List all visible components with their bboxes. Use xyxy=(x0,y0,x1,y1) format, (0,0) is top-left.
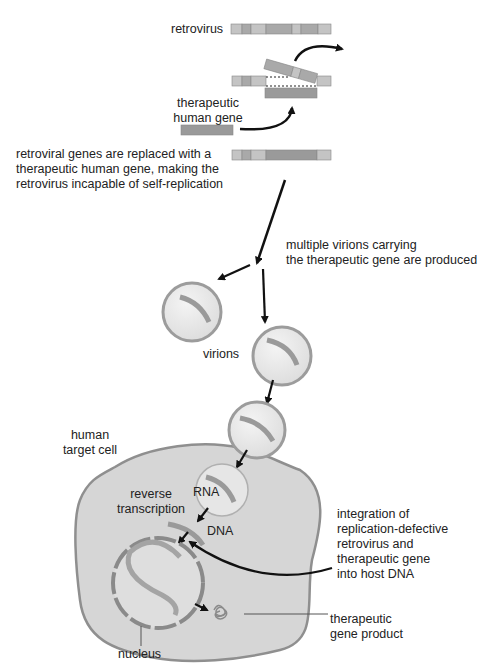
human-target-cell xyxy=(75,444,320,661)
virions-produced-caption: multiple virions carrying the therapeuti… xyxy=(286,238,477,268)
excised-genome-bar xyxy=(232,59,331,98)
therapeutic-gene-bar xyxy=(181,125,233,135)
virion-1 xyxy=(163,283,221,341)
virion-3 xyxy=(229,402,285,458)
target-cell-label: human target cell xyxy=(60,428,120,458)
retrovirus-genome-bar xyxy=(231,24,331,34)
nucleus xyxy=(113,538,203,628)
recombinant-genome-bar xyxy=(232,150,331,160)
replacement-caption: retroviral genes are replaced with a the… xyxy=(16,147,223,192)
virion-2 xyxy=(253,327,311,385)
integration-caption: integration of replication-defective ret… xyxy=(337,507,448,582)
arrow-to-virion-left xyxy=(219,265,250,279)
insertion-arrow xyxy=(240,108,292,129)
therapeutic-gene-label: therapeutic human gene xyxy=(173,96,243,126)
rna-label: RNA xyxy=(193,485,219,500)
production-arrow xyxy=(257,180,285,263)
arrow-to-virion-right xyxy=(263,269,265,322)
reverse-transcription-label: reverse transcription xyxy=(116,487,186,517)
virions-label: virions xyxy=(203,347,239,362)
excision-arrow xyxy=(295,46,342,61)
gene-product-label: therapeutic gene product xyxy=(330,612,403,642)
nucleus-label: nucleus xyxy=(118,647,161,662)
retrovirus-label: retrovirus xyxy=(171,22,223,37)
dna-label: DNA xyxy=(207,524,233,539)
